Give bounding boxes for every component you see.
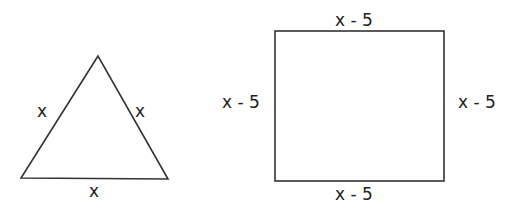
triangle-right-side-label: x <box>135 101 145 121</box>
triangle-base-label: x <box>89 181 99 201</box>
square-left-label: x - 5 <box>222 92 260 112</box>
square-right-label: x - 5 <box>458 92 496 112</box>
square-top-label: x - 5 <box>335 10 373 30</box>
square <box>275 31 444 181</box>
triangle-left-side-label: x <box>37 101 47 121</box>
geometry-figure: x x x x - 5 x - 5 x - 5 x - 5 <box>0 0 521 213</box>
square-bottom-label: x - 5 <box>335 184 373 204</box>
